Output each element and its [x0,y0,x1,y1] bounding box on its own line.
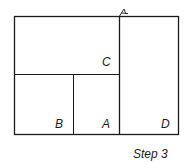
region-label-a: A [101,117,110,131]
region-label-d: D [161,117,170,131]
fold-tick-icon [120,9,129,16]
region-label-c: C [102,55,111,69]
outer-rectangle [15,17,179,135]
step-diagram: C B A D Step 3 [0,0,187,162]
region-label-b: B [55,117,63,131]
step-caption: Step 3 [133,147,168,161]
